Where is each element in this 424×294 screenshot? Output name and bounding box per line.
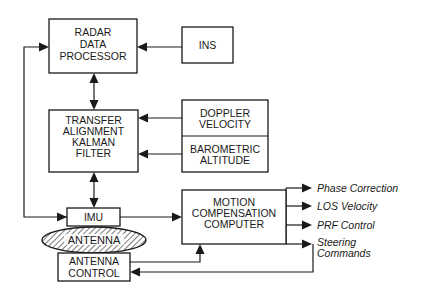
block-motion-compensation-computer: MOTION COMPENSATION COMPUTER <box>182 190 286 244</box>
edge-motion-outputs <box>286 184 312 249</box>
block-antenna-control: ANTENNA CONTROL <box>58 253 130 281</box>
edge-antenna-control-to-motion <box>130 244 205 262</box>
label-imu: IMU <box>84 211 103 223</box>
edge-ins-to-radar <box>137 43 182 52</box>
block-radar-data-processor: RADAR DATA PROCESSOR <box>49 19 137 73</box>
output-los-velocity: LOS Velocity <box>317 200 378 212</box>
edge-steering-to-antenna-control <box>130 244 313 277</box>
output-commands: Commands <box>317 247 371 259</box>
block-ins: INS <box>182 27 233 63</box>
edge-doppler-to-kalman <box>138 114 182 123</box>
block-diagram: RADAR DATA PROCESSOR INS TRANSFER ALIGNM… <box>0 0 424 294</box>
label-control: CONTROL <box>68 267 119 279</box>
edge-imu-to-motion <box>120 213 182 222</box>
label-processor: PROCESSOR <box>59 50 127 62</box>
block-imu: IMU <box>67 208 120 226</box>
label-filter: FILTER <box>76 147 112 159</box>
label-altitude: ALTITUDE <box>200 154 250 166</box>
label-velocity: VELOCITY <box>199 118 251 130</box>
label-radar: RADAR <box>75 26 112 38</box>
edge-kalman-imu <box>90 172 99 208</box>
output-prf-control: PRF Control <box>317 219 375 231</box>
label-computer: COMPUTER <box>204 218 265 230</box>
block-kalman-filter: TRANSFER ALIGNMENT KALMAN FILTER <box>49 110 138 172</box>
block-doppler-barometric: DOPPLER VELOCITY BAROMETRIC ALTITUDE <box>182 100 268 172</box>
arrowhead-into-imu <box>57 213 67 222</box>
label-antenna: ANTENNA <box>68 234 121 246</box>
label-data: DATA <box>80 38 106 50</box>
label-ins: INS <box>199 39 217 51</box>
edge-radar-kalman <box>90 73 99 110</box>
edge-baro-to-kalman <box>138 150 182 159</box>
block-antenna: ANTENNA <box>42 227 146 253</box>
output-phase-correction: Phase Correction <box>317 182 398 194</box>
label-antenna-ctrl: ANTENNA <box>69 255 119 267</box>
